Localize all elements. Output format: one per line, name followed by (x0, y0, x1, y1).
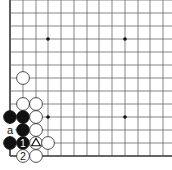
white-stone-icon (30, 150, 43, 163)
white-stone (30, 124, 43, 137)
star-point-icon (123, 37, 127, 41)
white-stone (30, 137, 43, 150)
go-board: 12 a (0, 0, 172, 170)
white-stone (30, 150, 43, 163)
black-stone: 1 (17, 137, 30, 150)
black-stone (17, 111, 30, 124)
point-label-a: a (7, 124, 14, 136)
move-number-label: 2 (20, 150, 26, 162)
star-point-icon (123, 115, 127, 119)
white-stone (17, 72, 30, 85)
white-stone-icon (17, 98, 30, 111)
white-stone (30, 98, 43, 111)
white-stone (30, 111, 43, 124)
white-stone-icon (30, 111, 43, 124)
black-stone (17, 124, 30, 137)
star-point-icon (46, 37, 50, 41)
point-labels: a (5, 124, 15, 136)
white-stone-icon (30, 124, 43, 137)
white-stone: 2 (17, 150, 30, 163)
white-stone-icon (30, 98, 43, 111)
black-stone (4, 137, 17, 150)
white-stone (17, 98, 30, 111)
move-number-label: 1 (20, 137, 26, 149)
black-stone-icon (17, 111, 30, 124)
black-stone-icon (17, 124, 30, 137)
black-stone-icon (4, 137, 17, 150)
white-stone-icon (17, 72, 30, 85)
black-stone-icon (4, 111, 17, 124)
star-point-icon (46, 115, 50, 119)
white-stone-icon (42, 137, 55, 150)
white-stone (42, 137, 55, 150)
black-stone (4, 111, 17, 124)
